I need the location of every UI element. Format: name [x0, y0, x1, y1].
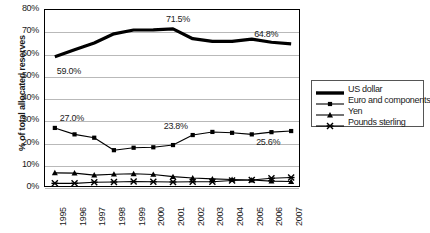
legend-label: Yen: [345, 107, 362, 116]
data-point-marker: [151, 145, 155, 149]
y-tick-label: 30%: [13, 115, 39, 124]
data-point-marker: [210, 130, 214, 134]
data-point-marker: [71, 180, 78, 186]
data-point-marker: [150, 179, 157, 185]
data-label: 23.8%: [164, 121, 188, 131]
y-tick-label: 10%: [13, 160, 39, 169]
y-tick-label: 40%: [13, 93, 39, 102]
data-point-marker: [91, 179, 98, 185]
x-tick-label: 1998: [117, 207, 127, 226]
x-tick-label: 2004: [235, 207, 245, 226]
x-tick-label: 2002: [196, 207, 206, 226]
x-tick-label: 2003: [215, 207, 225, 226]
y-tick-label: 50%: [13, 71, 39, 80]
legend-key-icon: [315, 84, 345, 94]
data-point-marker: [51, 180, 58, 186]
legend-key-icon: [315, 95, 345, 105]
legend-item-us-dollar[interactable]: US dollar: [315, 84, 423, 94]
y-tick-label: 70%: [13, 26, 39, 35]
data-label: 71.5%: [166, 14, 190, 24]
y-tick-label: 20%: [13, 138, 39, 147]
data-point-marker: [230, 131, 234, 135]
x-tick-label: 1995: [58, 207, 68, 226]
data-point-marker: [289, 129, 293, 133]
x-tick-label: 2005: [255, 207, 265, 226]
data-point-marker: [112, 148, 116, 152]
legend-item-yen[interactable]: Yen: [315, 106, 423, 116]
data-label: 25.6%: [256, 137, 280, 147]
data-point-marker: [72, 132, 76, 136]
data-point-marker: [92, 136, 96, 140]
legend-label: Pounds sterling: [345, 118, 406, 127]
data-point-marker: [269, 130, 273, 134]
x-tick-label: 2000: [156, 207, 166, 226]
legend-key-icon: [315, 117, 345, 127]
x-tick-label: 1999: [137, 207, 147, 226]
legend-label: US dollar: [345, 85, 382, 94]
data-point-marker: [132, 146, 136, 150]
x-tick-label: 2006: [274, 207, 284, 226]
legend-key-icon: [315, 106, 345, 116]
y-axis-ticks: 80%70%60%50%40%30%20%10%0%: [9, 0, 39, 233]
x-tick-label: 2007: [294, 207, 304, 226]
legend-item-euro-and-components[interactable]: Euro and components: [315, 95, 423, 105]
data-label: 27.0%: [60, 113, 84, 123]
legend-label: Euro and components: [345, 96, 430, 105]
x-axis-ticks: 1995199619971998199920002001200220032004…: [44, 188, 300, 233]
y-tick-label: 60%: [13, 49, 39, 58]
x-tick-label: 2001: [176, 207, 186, 226]
data-label: 59.0%: [57, 66, 81, 76]
data-label: 64.8%: [254, 29, 278, 39]
x-tick-label: 1996: [78, 207, 88, 226]
data-point-marker: [327, 123, 334, 129]
data-point-marker: [191, 133, 195, 137]
data-point-marker: [53, 126, 57, 130]
data-point-marker: [170, 179, 177, 185]
data-point-marker: [130, 179, 137, 185]
y-tick-label: 80%: [13, 4, 39, 13]
x-tick-label: 1997: [97, 207, 107, 226]
legend-item-pounds-sterling[interactable]: Pounds sterling: [315, 117, 423, 127]
data-point-marker: [111, 179, 118, 185]
data-point-marker: [250, 132, 254, 136]
data-point-marker: [171, 143, 175, 147]
y-tick-label: 0%: [13, 182, 39, 191]
chart-legend: US dollarEuro and componentsYenPounds st…: [311, 80, 424, 127]
